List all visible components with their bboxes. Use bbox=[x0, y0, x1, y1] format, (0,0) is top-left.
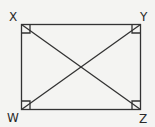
vertex-label-y: Y bbox=[139, 10, 148, 24]
rectangle-diagram: X Y W Z bbox=[0, 0, 155, 127]
vertex-label-z: Z bbox=[139, 112, 147, 126]
vertex-label-w: W bbox=[7, 111, 19, 125]
vertex-label-x: X bbox=[9, 10, 17, 24]
